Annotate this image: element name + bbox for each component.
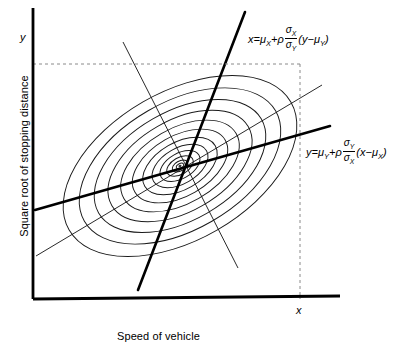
contour-ellipse (133, 125, 227, 206)
equation-x-on-y: x=μX+ρσXσY(y−μY) (248, 24, 329, 53)
eq-x-tail: (y−μY) (298, 33, 328, 45)
contour-ellipse (71, 72, 288, 260)
eq-x-rho: ρ (277, 33, 283, 45)
x-axis-tick-label: x (296, 304, 302, 316)
contour-ellipse (145, 135, 216, 196)
y-axis-tick-label: y (20, 31, 26, 43)
eq-y-sigma-ratio: σYσX (343, 137, 356, 166)
contour-ellipse (120, 114, 240, 218)
eq-y-rho: ρ (335, 146, 341, 158)
x-axis-line (33, 296, 340, 299)
equation-y-on-x: y=μY+ρσYσX(x−μX) (306, 137, 387, 166)
contour-ellipse (179, 165, 182, 167)
eq-x-sigma-ratio: σXσY (285, 24, 298, 53)
bivariate-normal-diagram (0, 0, 407, 364)
regression-line-y-on-x (35, 126, 330, 210)
y-axis-title: Square root of stopping distance (18, 36, 30, 276)
contour-ellipse (89, 87, 271, 245)
principal-axis-major-line (36, 85, 322, 256)
contour-ellipse-group (32, 38, 328, 294)
eq-y-tail: (x−μX) (356, 146, 386, 158)
contour-ellipse (105, 101, 255, 231)
eq-y-mu: μY (318, 146, 329, 158)
contour-ellipse (53, 56, 308, 277)
regression-line-x-on-y (138, 12, 245, 290)
contour-ellipse (32, 38, 328, 294)
x-axis-title: Speed of vehicle (117, 330, 200, 342)
eq-x-mu: μX (260, 33, 271, 45)
